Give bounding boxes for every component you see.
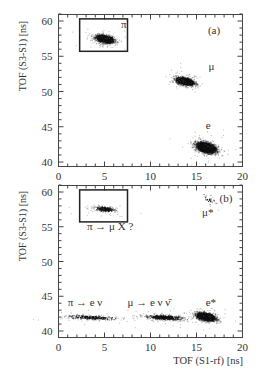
panel-a-scatter-points [72,29,236,166]
cluster-annotation: μ → e ν ν̄ [128,296,173,308]
x-tick-label: 0 [56,341,62,353]
panel-a-annotations: πμe [121,18,214,131]
cluster-annotation: e [206,119,211,131]
panel-b-x-tick-labels: 05101520 [56,341,249,353]
y-tick-label: 55 [42,50,54,62]
panel-b-label: (b) [220,192,233,205]
y-tick-label: 60 [42,186,54,198]
y-tick-label: 50 [42,86,54,98]
cluster-annotation: e* [206,296,216,308]
x-tick-label: 0 [56,170,62,182]
panel-a-y-tick-labels: 4045505560 [42,15,54,168]
x-tick-label: 15 [191,170,203,182]
panel-a: (a) 4045505560 05101520 πμe TOF (S3-S1) … [17,14,249,182]
cluster-annotation: μ [208,60,214,72]
cluster-annotation: μ* [202,206,213,218]
x-tick-label: 20 [237,170,249,182]
panel-a-label: (a) [208,24,221,37]
y-tick-label: 50 [42,256,54,268]
panel-b-annotations: π → μ X ?μ*π → e νμ → e ν ν̄e* [68,206,216,308]
x-tick-label: 5 [102,341,108,353]
panel-b-y-tick-labels: 4045505560 [42,186,54,337]
x-tick-label: 10 [145,170,157,182]
panel-b-y-axis-label: TOF (S3-S1) [ns] [17,191,29,261]
x-tick-label: 20 [237,341,249,353]
cluster-annotation: π → μ X ? [87,220,133,232]
y-tick-label: 45 [42,121,54,133]
y-tick-label: 40 [42,325,54,337]
y-tick-label: 45 [42,290,54,302]
figure: (a) 4045505560 05101520 πμe TOF (S3-S1) … [0,0,262,381]
x-tick-label: 5 [102,170,108,182]
panel-b: (b) 4045505560 05101520 π → μ X ?μ*π → e… [17,185,249,367]
y-tick-label: 60 [42,15,54,27]
y-tick-label: 40 [42,156,54,168]
panel-a-x-tick-labels: 05101520 [56,170,249,182]
y-tick-label: 55 [42,221,54,233]
cluster-annotation: π [121,18,127,30]
cluster-annotation: π → e ν [68,296,103,308]
x-axis-label: TOF (S1-rf) [ns] [173,355,243,367]
x-tick-label: 15 [191,341,203,353]
panel-a-y-axis-label: TOF (S3-S1) [ns] [17,21,29,91]
x-tick-label: 10 [145,341,157,353]
